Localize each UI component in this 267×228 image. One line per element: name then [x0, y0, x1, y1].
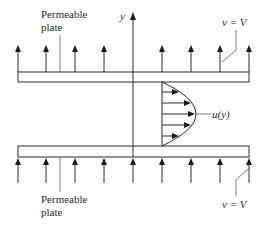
- top-velocity-label: v = V: [222, 16, 248, 28]
- bottom-arrow-8-arrowhead-icon: [217, 158, 223, 165]
- top-arrow-6-arrowhead-icon: [188, 45, 194, 52]
- top-arrow-3-arrowhead-icon: [72, 45, 78, 52]
- profile-arrow-1-arrowhead-icon: [172, 89, 179, 95]
- bottom-arrow-2-arrowhead-icon: [43, 158, 49, 165]
- top-velocity-leader: [222, 30, 236, 62]
- bottom-velocity-label: v = V: [222, 198, 248, 210]
- bottom-arrow-6-arrowhead-icon: [159, 158, 165, 165]
- bottom-arrow-5-arrowhead-icon: [130, 158, 136, 165]
- y-axis-label: y: [119, 10, 125, 22]
- top-arrow-2-arrowhead-icon: [43, 45, 49, 52]
- bottom-velocity-leader: [236, 168, 249, 196]
- top-arrow-5-arrowhead-icon: [159, 45, 165, 52]
- bottom-plate-label-line2: plate: [41, 206, 62, 218]
- velocity-profile-label: u(y): [212, 108, 230, 121]
- profile-arrow-5-arrowhead-icon: [172, 133, 179, 139]
- top-plate-label-line1: Permeable: [41, 8, 88, 20]
- y-axis-arrowhead-icon: [130, 12, 136, 20]
- permeable-plates-diagram: y u(y) Permeable plate v = V Permeable p…: [0, 0, 267, 228]
- bottom-injection-arrows: [15, 158, 252, 183]
- top-arrow-8-arrowhead-icon: [246, 45, 252, 52]
- bottom-arrow-9-arrowhead-icon: [246, 158, 252, 165]
- top-arrow-1-arrowhead-icon: [15, 45, 21, 52]
- profile-arrow-3-arrowhead-icon: [188, 111, 195, 117]
- velocity-profile-arrows: [162, 89, 195, 139]
- top-plate-label-line2: plate: [41, 21, 62, 33]
- bottom-plate-label-line1: Permeable: [41, 193, 88, 205]
- bottom-arrow-1-arrowhead-icon: [15, 158, 21, 165]
- bottom-arrow-4-arrowhead-icon: [101, 158, 107, 165]
- bottom-arrow-3-arrowhead-icon: [72, 158, 78, 165]
- top-arrow-7-arrowhead-icon: [217, 45, 223, 52]
- top-arrow-4-arrowhead-icon: [101, 45, 107, 52]
- bottom-arrow-7-arrowhead-icon: [188, 158, 194, 165]
